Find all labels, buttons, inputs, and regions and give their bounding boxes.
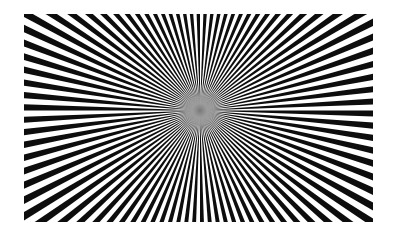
image-canvas bbox=[0, 0, 397, 240]
center-dot bbox=[191, 102, 209, 120]
starburst-rays bbox=[24, 14, 373, 222]
starburst-pattern-frame bbox=[24, 14, 373, 222]
